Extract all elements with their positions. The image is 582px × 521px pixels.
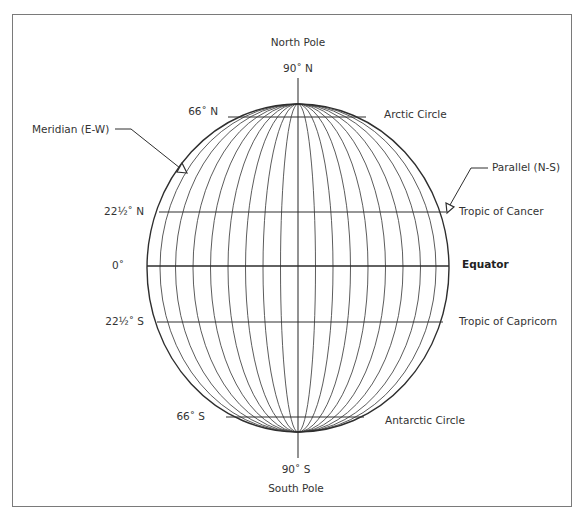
tropic-of-cancer-label: Tropic of Cancer xyxy=(459,206,544,217)
meridian-callout-label: Meridian (E-W) xyxy=(32,124,109,135)
north-pole-degree-label: 90˚ N xyxy=(283,63,313,74)
latitude-label-22-5n: 22½˚ N xyxy=(104,206,144,217)
parallel-callout-label: Parallel (N-S) xyxy=(492,162,560,173)
south-pole-label: South Pole xyxy=(268,483,324,494)
meridian-callout-leader xyxy=(115,129,187,173)
equator-label: Equator xyxy=(462,259,509,270)
south-pole-degree-label: 90˚ S xyxy=(282,464,311,475)
tropic-of-capricorn-label: Tropic of Capricorn xyxy=(459,316,557,327)
latitude-label-22-5s: 22½˚ S xyxy=(105,316,144,327)
latitude-label-66s: 66˚ S xyxy=(176,411,205,422)
latitude-label-0: 0˚ xyxy=(112,260,124,271)
parallel-arrowhead-icon xyxy=(446,203,454,213)
latitude-label-66n: 66˚ N xyxy=(188,106,218,117)
arctic-circle-label: Arctic Circle xyxy=(384,109,447,120)
antarctic-circle-label: Antarctic Circle xyxy=(385,415,465,426)
north-pole-label: North Pole xyxy=(271,37,325,48)
